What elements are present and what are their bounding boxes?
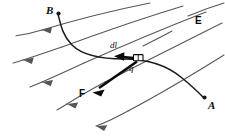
- field-line-5: [96, 55, 224, 131]
- label-point-a: A: [208, 100, 215, 111]
- label-displacement-dl: dl: [110, 41, 117, 50]
- charge-path-curve: [56, 11, 206, 99]
- field-lines-group: [13, 3, 224, 131]
- field-line-1: [16, 3, 150, 36]
- label-charge-q: q: [129, 64, 134, 73]
- label-point-b: B: [46, 5, 53, 16]
- point-b-marker: [56, 11, 60, 15]
- field-line-7: [143, 31, 172, 46]
- diagram-canvas: [0, 0, 225, 136]
- point-a-marker: [202, 95, 206, 99]
- label-force-f: F: [79, 89, 85, 99]
- charge-element-q: [134, 55, 144, 61]
- field-line-6: [188, 3, 224, 16]
- label-field-e: E: [195, 16, 202, 26]
- electric-field-diagram: B A E F dl q: [0, 0, 225, 136]
